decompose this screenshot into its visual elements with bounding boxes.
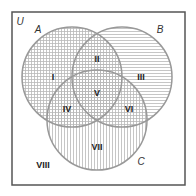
universe-label: U — [16, 16, 24, 27]
region-4-label: IV — [63, 104, 72, 114]
region-2-label: II — [94, 54, 99, 64]
region-8-label: VIII — [36, 160, 50, 170]
set-a-label: A — [34, 24, 42, 35]
venn-diagram: U A B C I II III IV V VI VII VIII — [0, 0, 196, 196]
region-1-label: I — [52, 72, 55, 82]
region-7-label: VII — [91, 142, 102, 152]
region-6-label: VI — [125, 104, 134, 114]
set-c-label: C — [137, 156, 145, 167]
region-3-label: III — [137, 72, 145, 82]
set-b-label: B — [157, 24, 164, 35]
region-5-label: V — [94, 88, 100, 98]
